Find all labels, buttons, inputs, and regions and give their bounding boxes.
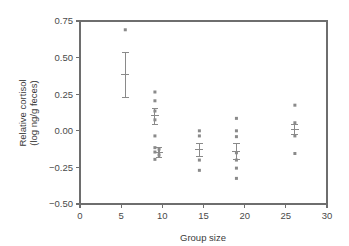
y-tick-label: 0.50 bbox=[55, 52, 74, 63]
plot-frame bbox=[80, 21, 327, 204]
data-point-marker bbox=[198, 159, 201, 162]
data-point-marker bbox=[153, 158, 156, 161]
data-point-marker bbox=[198, 134, 201, 137]
data-point-marker bbox=[235, 129, 238, 132]
data-group-group-14 bbox=[195, 129, 203, 172]
axes bbox=[80, 21, 327, 204]
data-series bbox=[121, 28, 299, 180]
data-point-marker bbox=[124, 28, 127, 31]
x-axis-title: Group size bbox=[180, 232, 226, 243]
x-tick-label: 5 bbox=[119, 210, 124, 221]
figure-container: −0.50−0.250.000.250.500.75 051015202530 … bbox=[0, 0, 349, 246]
cortisol-scatter-chart: −0.50−0.250.000.250.500.75 051015202530 … bbox=[0, 0, 349, 246]
x-tick-label: 10 bbox=[157, 210, 168, 221]
data-point-marker bbox=[293, 104, 296, 107]
x-tick-label: 15 bbox=[198, 210, 209, 221]
x-tick-label: 30 bbox=[322, 210, 333, 221]
data-point-marker bbox=[235, 135, 238, 138]
data-point-marker bbox=[235, 177, 238, 180]
y-tick-label: 0.75 bbox=[55, 15, 74, 26]
data-group-group-26 bbox=[291, 104, 299, 155]
y-tick-label: 0.00 bbox=[55, 125, 74, 136]
data-point-marker bbox=[153, 91, 156, 94]
x-tick-label: 20 bbox=[239, 210, 250, 221]
data-point-marker bbox=[235, 167, 238, 170]
y-tick-label: −0.25 bbox=[49, 162, 73, 173]
data-point-marker bbox=[198, 129, 201, 132]
data-point-marker bbox=[293, 152, 296, 155]
y-tick-label: 0.25 bbox=[55, 89, 74, 100]
data-group-group-5 bbox=[121, 28, 129, 98]
x-tick-label: 25 bbox=[281, 210, 292, 221]
y-axis-ticks: −0.50−0.250.000.250.500.75 bbox=[49, 15, 80, 209]
y-axis-title-line2: (log ng/g feces) bbox=[28, 80, 39, 145]
data-point-marker bbox=[153, 134, 156, 137]
x-axis-ticks: 051015202530 bbox=[77, 204, 332, 221]
data-group-group-19 bbox=[232, 117, 240, 180]
y-axis-title-line1: Relative cortisol bbox=[17, 79, 28, 146]
x-tick-label: 0 bbox=[77, 210, 82, 221]
data-point-marker bbox=[153, 99, 156, 102]
data-point-marker bbox=[198, 169, 201, 172]
y-tick-label: −0.50 bbox=[49, 198, 73, 209]
data-point-marker bbox=[235, 117, 238, 120]
